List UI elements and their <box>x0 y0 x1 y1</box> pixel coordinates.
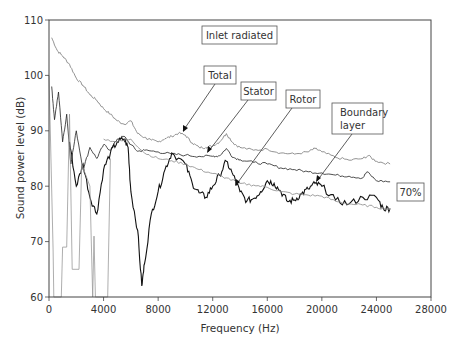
y-tick-label: 110 <box>24 15 43 26</box>
y-tick-label: 100 <box>24 70 43 81</box>
x-tick-label: 28000 <box>415 304 447 315</box>
plot-frame <box>49 20 431 297</box>
x-axis-label: Frequency (Hz) <box>200 322 279 334</box>
stator-label: Stator <box>207 82 276 153</box>
svg-text:70%: 70% <box>399 187 421 198</box>
axis-ticks: 0400080001200016000200002400028000607080… <box>24 15 447 316</box>
x-tick-label: 8000 <box>145 304 170 315</box>
x-tick-label: 24000 <box>361 304 393 315</box>
spectrum-chart: 0400080001200016000200002400028000607080… <box>0 0 461 346</box>
x-tick-label: 4000 <box>91 304 116 315</box>
boundary-layer-label: Boundary layer <box>316 103 388 182</box>
percent-annotation: 70% <box>397 183 424 201</box>
series-total <box>52 38 390 165</box>
svg-text:Stator: Stator <box>243 86 274 97</box>
svg-text:Total: Total <box>207 70 231 81</box>
total-label: Total <box>183 66 236 132</box>
svg-text:layer: layer <box>340 120 366 131</box>
y-tick-label: 90 <box>30 125 43 136</box>
svg-text:Inlet radiated: Inlet radiated <box>206 30 273 41</box>
x-tick-label: 20000 <box>306 304 338 315</box>
y-tick-label: 70 <box>30 236 43 247</box>
x-tick-label: 12000 <box>197 304 229 315</box>
y-tick-label: 60 <box>30 292 43 303</box>
svg-text:Boundary: Boundary <box>340 107 388 118</box>
x-tick-label: 0 <box>46 304 52 315</box>
series-rotor <box>70 138 391 286</box>
chart-canvas: 0400080001200016000200002400028000607080… <box>0 0 461 346</box>
svg-text:Rotor: Rotor <box>290 94 318 105</box>
arrow-icon <box>183 125 188 132</box>
inlet-radiated-label: Inlet radiated <box>202 26 277 44</box>
y-axis-label: Sound power level (dB) <box>14 97 26 220</box>
y-tick-label: 80 <box>30 181 43 192</box>
x-tick-label: 16000 <box>251 304 283 315</box>
